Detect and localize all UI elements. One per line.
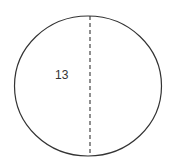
diameter-label: 13 bbox=[55, 68, 69, 82]
circle bbox=[15, 16, 162, 156]
circle-diagram: 13 bbox=[0, 0, 170, 164]
